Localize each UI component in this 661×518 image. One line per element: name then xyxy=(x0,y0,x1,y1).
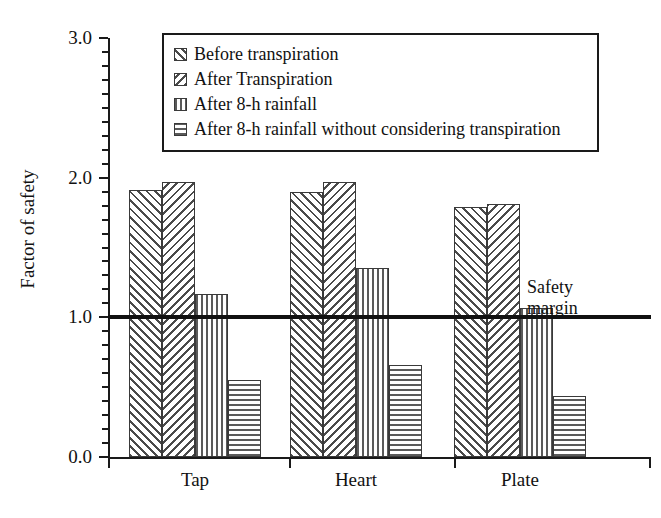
bar xyxy=(129,190,162,457)
bar xyxy=(290,192,323,457)
y-tick-minor xyxy=(102,135,108,137)
y-tick-minor xyxy=(102,79,108,81)
y-tick-minor xyxy=(102,302,108,304)
y-tick-minor xyxy=(102,400,108,402)
x-axis-line xyxy=(108,457,651,459)
y-tick-label: 2.0 xyxy=(48,168,92,187)
legend-label: Before transpiration xyxy=(194,45,338,64)
y-tick-minor xyxy=(102,344,108,346)
y-tick-minor xyxy=(102,288,108,290)
legend-item: After 8-h rainfall without considering t… xyxy=(174,117,587,142)
y-tick-minor xyxy=(102,330,108,332)
x-axis-category-label: Heart xyxy=(296,470,416,490)
x-axis-divider xyxy=(649,457,651,468)
y-tick-minor xyxy=(102,372,108,374)
y-tick-minor xyxy=(102,442,108,444)
bar xyxy=(454,207,487,457)
y-tick-major xyxy=(99,37,108,39)
y-tick-minor xyxy=(102,428,108,430)
y-tick-minor xyxy=(102,149,108,151)
y-tick-minor xyxy=(102,414,108,416)
legend-label: After 8-h rainfall without considering t… xyxy=(194,120,560,139)
y-tick-minor xyxy=(102,107,108,109)
y-tick-minor xyxy=(102,51,108,53)
x-axis-category-label: Plate xyxy=(460,470,580,490)
y-axis-title: Factor of safety xyxy=(17,129,39,329)
y-tick-label: 3.0 xyxy=(48,28,92,47)
legend-swatch-icon xyxy=(174,48,187,61)
bar xyxy=(520,308,553,457)
legend-item: After Transpiration xyxy=(174,67,587,92)
legend-label: After 8-h rainfall xyxy=(194,95,317,114)
y-tick-major xyxy=(99,177,108,179)
legend-swatch-icon xyxy=(174,98,187,111)
y-tick-major xyxy=(99,316,108,318)
bar xyxy=(487,204,520,457)
y-tick-minor xyxy=(102,191,108,193)
x-axis-divider xyxy=(454,457,456,468)
bar xyxy=(228,380,261,457)
legend-swatch-icon xyxy=(174,123,187,136)
y-tick-minor xyxy=(102,274,108,276)
y-tick-minor xyxy=(102,163,108,165)
y-tick-minor xyxy=(102,358,108,360)
legend-item: After 8-h rainfall xyxy=(174,92,587,117)
legend-item: Before transpiration xyxy=(174,42,587,67)
y-tick-minor xyxy=(102,386,108,388)
y-tick-minor xyxy=(102,219,108,221)
bar-chart: Factor of safety 0.01.02.03.0 Safety mar… xyxy=(0,0,661,518)
y-tick-minor xyxy=(102,260,108,262)
legend-label: After Transpiration xyxy=(194,70,333,89)
y-tick-minor xyxy=(102,205,108,207)
y-tick-minor xyxy=(102,121,108,123)
bar xyxy=(323,182,356,457)
y-tick-minor xyxy=(102,93,108,95)
y-tick-minor xyxy=(102,233,108,235)
y-tick-minor xyxy=(102,65,108,67)
x-axis-divider xyxy=(289,457,291,468)
bar xyxy=(553,396,586,457)
legend-swatch-icon xyxy=(174,73,187,86)
x-axis-start-tick xyxy=(108,457,110,468)
legend: Before transpirationAfter TranspirationA… xyxy=(162,33,599,152)
bar xyxy=(356,268,389,457)
y-tick-minor xyxy=(102,247,108,249)
bar xyxy=(389,365,422,457)
safety-margin-label: Safety margin xyxy=(527,277,578,319)
y-tick-label: 1.0 xyxy=(48,307,92,326)
x-axis-category-label: Tap xyxy=(135,470,255,490)
y-tick-label: 0.0 xyxy=(48,447,92,466)
bar xyxy=(162,182,195,457)
y-tick-major xyxy=(99,456,108,458)
